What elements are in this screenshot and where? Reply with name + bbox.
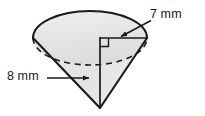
cone-diagram: 7 mm 8 mm [0, 0, 205, 116]
radius-dimension-label: 7 mm [150, 8, 182, 21]
slant-height-dimension-label: 8 mm [7, 70, 39, 83]
